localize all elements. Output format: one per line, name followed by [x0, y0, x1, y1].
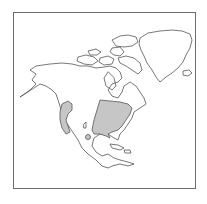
hispaniola: [124, 150, 131, 153]
arctic-island-2: [110, 47, 124, 56]
arctic-island-3: [88, 49, 101, 55]
iceland: [183, 70, 192, 76]
arctic-island-4: [77, 55, 98, 65]
baffin-island: [118, 56, 142, 74]
gulf-coast-point: [86, 135, 91, 140]
eastern-range: [92, 100, 132, 138]
arctic-island-1: [112, 35, 138, 47]
north-america-map: [0, 0, 207, 204]
arctic-island-5: [99, 56, 114, 65]
cuba: [110, 144, 124, 150]
